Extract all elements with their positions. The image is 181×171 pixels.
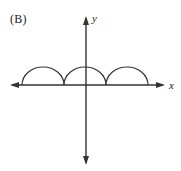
plot-area: x y xyxy=(0,0,181,171)
arc-right xyxy=(106,67,148,85)
x-axis-left-arrow-icon xyxy=(10,82,19,88)
y-axis-label: y xyxy=(91,12,97,24)
figure-panel-b: (B) x y xyxy=(0,0,181,171)
y-axis-top-arrow-icon xyxy=(83,16,89,25)
x-axis-right-arrow-icon xyxy=(156,82,165,88)
arc-middle xyxy=(64,67,106,85)
arc-left xyxy=(22,67,64,85)
x-axis-label: x xyxy=(168,79,174,91)
y-axis-bottom-arrow-icon xyxy=(83,156,89,165)
